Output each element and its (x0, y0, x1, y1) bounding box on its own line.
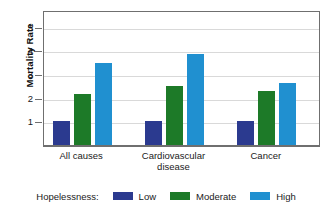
bar-low-0[interactable] (53, 121, 70, 145)
bar-moderate-0[interactable] (74, 94, 91, 145)
y-tick-label-3: 3 (22, 70, 33, 80)
y-tick-label-2: 2 (22, 94, 33, 104)
x-category-label-1: Cardiovasculardisease (127, 150, 219, 172)
x-category-label-0: All causes (35, 150, 127, 161)
legend-item-low[interactable]: Low (113, 191, 156, 202)
x-category-label-2: Cancer (220, 150, 312, 161)
x-category-line2-1: disease (127, 161, 219, 172)
y-tick-label-4: 4 (22, 47, 33, 57)
bar-moderate-2[interactable] (258, 91, 275, 145)
legend-item-moderate[interactable]: Moderate (170, 191, 236, 202)
legend-title: Hopelessness: (36, 191, 98, 202)
y-tick-2 (35, 99, 42, 100)
y-tick-4 (35, 51, 42, 52)
bar-high-2[interactable] (279, 83, 296, 145)
bar-chart: Mortality Rate 12345 All causesCardiovas… (0, 0, 332, 212)
y-tick-3 (35, 75, 42, 76)
bar-moderate-1[interactable] (166, 86, 183, 145)
y-tick-1 (35, 122, 42, 123)
legend-label-high: High (276, 191, 296, 202)
gridline-4 (44, 52, 319, 53)
x-axis-line (44, 145, 319, 146)
bar-low-2[interactable] (237, 121, 254, 145)
y-tick-label-1: 1 (22, 118, 33, 128)
bar-high-0[interactable] (95, 63, 112, 145)
gridline-3 (44, 76, 319, 77)
y-tick-5 (35, 28, 42, 29)
legend-swatch-moderate-icon (170, 192, 190, 200)
legend-item-high[interactable]: High (250, 191, 296, 202)
legend: Hopelessness: Low Moderate High (0, 188, 332, 204)
legend-swatch-high-icon (250, 192, 270, 200)
legend-swatch-low-icon (113, 192, 133, 200)
gridline-5 (44, 29, 319, 30)
x-category-line1-0: All causes (35, 150, 127, 161)
x-category-line1-2: Cancer (220, 150, 312, 161)
legend-label-moderate: Moderate (196, 191, 236, 202)
legend-label-low: Low (139, 191, 156, 202)
y-tick-label-5: 5 (22, 23, 33, 33)
plot-area (43, 11, 320, 147)
bar-high-1[interactable] (187, 54, 204, 145)
x-category-line1-1: Cardiovascular (127, 150, 219, 161)
bar-low-1[interactable] (145, 121, 162, 145)
